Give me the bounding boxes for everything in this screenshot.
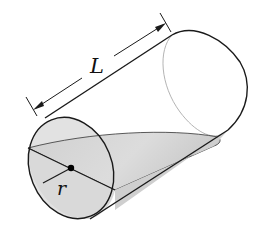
back-ellipse-visible-edge <box>172 31 247 130</box>
dimension-arrowhead-right <box>155 23 166 32</box>
dimension-line-right <box>114 25 163 56</box>
dimension-tick-left <box>26 97 37 116</box>
length-label: L <box>90 54 104 78</box>
back-ellipse-hidden-edge <box>163 35 222 136</box>
top-generator-line <box>45 35 172 118</box>
cylinder-wedge-diagram: L r <box>0 0 253 226</box>
dimension-arrowhead-left <box>33 101 44 110</box>
center-point <box>68 165 74 171</box>
dimension-tick-right <box>160 13 171 32</box>
diagram-graphic <box>0 0 253 226</box>
radius-label: r <box>57 177 66 199</box>
